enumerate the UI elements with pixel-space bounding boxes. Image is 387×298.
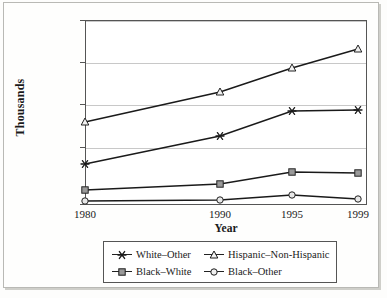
circle-marker xyxy=(217,197,223,203)
legend-item-white-other[interactable]: White–Other xyxy=(112,249,204,261)
legend-item-hispanic-non-hispanic[interactable]: Hispanic–Non-Hispanic xyxy=(204,249,334,261)
legend-label-black-white: Black–White xyxy=(136,266,191,277)
legend-item-black-other[interactable]: Black–Other xyxy=(204,266,334,278)
series-line-white-other xyxy=(81,107,362,168)
square-icon xyxy=(112,266,132,278)
square-marker xyxy=(355,170,361,176)
series-line-black-white xyxy=(82,169,361,193)
circle-marker xyxy=(355,196,361,202)
square-marker xyxy=(289,169,295,175)
triangle-marker xyxy=(354,45,362,52)
triangle-icon xyxy=(204,249,224,261)
circle-marker xyxy=(289,192,295,198)
square-marker xyxy=(217,181,223,187)
legend: White–Other Hispanic–Non-Hispanic Black–… xyxy=(103,241,337,283)
asterisk-star-marker xyxy=(216,133,224,140)
asterisk-star-icon xyxy=(112,249,132,261)
circle-marker xyxy=(82,198,88,204)
circle-icon xyxy=(204,266,224,278)
legend-label-white-other: White–Other xyxy=(136,249,191,260)
legend-label-black-other: Black–Other xyxy=(228,266,282,277)
legend-item-black-white[interactable]: Black–White xyxy=(112,266,204,278)
asterisk-star-marker xyxy=(81,161,89,168)
asterisk-star-marker xyxy=(354,107,362,114)
series-line-hispanic-non-hispanic xyxy=(81,45,362,125)
asterisk-star-marker xyxy=(288,108,296,115)
series-line-black-other xyxy=(82,192,361,204)
figure-container: Thousands 2,000 1,500 1,000 500 0 1980 1… xyxy=(0,0,387,298)
square-marker xyxy=(82,187,88,193)
legend-label-hispanic-non-hispanic: Hispanic–Non-Hispanic xyxy=(228,249,329,260)
